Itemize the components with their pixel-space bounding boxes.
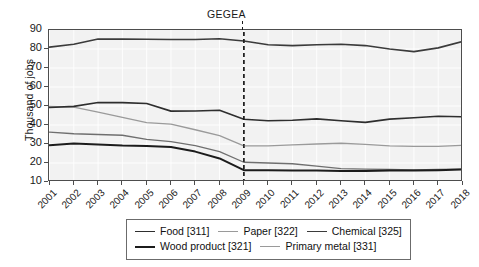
plot-area — [48, 29, 462, 181]
y-tick-label: 70 — [0, 61, 42, 72]
x-tick-mark — [316, 181, 317, 185]
legend-label: Food [311] — [160, 226, 209, 237]
y-tick-label: 20 — [0, 156, 42, 167]
x-tick-mark — [389, 181, 390, 185]
legend-row-1: Food [311]Paper [322]Chemical [325] — [135, 224, 402, 239]
x-tick-mark — [97, 181, 98, 185]
series-line-321 — [50, 144, 462, 171]
x-tick-mark — [291, 181, 292, 185]
legend-item[interactable]: Paper [322] — [218, 226, 297, 237]
legend-label: Primary metal [331] — [285, 241, 376, 252]
legend-line-swatch — [260, 246, 280, 247]
legend-line-swatch — [307, 231, 327, 232]
x-tick-mark — [146, 181, 147, 185]
x-tick-mark — [194, 181, 195, 185]
y-tick-label: 10 — [0, 175, 42, 186]
legend-label: Wood product [321] — [160, 241, 251, 252]
y-tick-label: 50 — [0, 99, 42, 110]
x-tick-mark — [170, 181, 171, 185]
chart-figure: Thousand of jobs 908070605040302010 GEGE… — [0, 0, 479, 267]
series-line-325 — [50, 39, 462, 52]
x-tick-mark — [267, 181, 268, 185]
legend-label: Paper [322] — [243, 226, 297, 237]
legend-item[interactable]: Primary metal [331] — [260, 241, 376, 252]
legend-item[interactable]: Food [311] — [135, 226, 209, 237]
x-tick-mark — [49, 181, 50, 185]
x-tick-mark — [243, 181, 244, 185]
legend-line-swatch — [218, 231, 238, 232]
x-tick-mark — [121, 181, 122, 185]
gegea-annotation: GEGEA — [207, 8, 246, 20]
gegea-marker-stem — [242, 21, 243, 30]
x-tick-mark — [364, 181, 365, 185]
x-tick-mark — [73, 181, 74, 185]
legend-item[interactable]: Chemical [325] — [307, 226, 402, 237]
y-tick-label: 60 — [0, 80, 42, 91]
x-tick-mark — [462, 181, 463, 185]
legend-label: Chemical [325] — [332, 226, 402, 237]
legend-line-swatch — [135, 246, 155, 248]
legend-row-2: Wood product [321]Primary metal [331] — [135, 239, 402, 254]
series-line-322 — [50, 106, 462, 146]
x-tick-mark — [340, 181, 341, 185]
series-line-311 — [50, 103, 462, 123]
y-tick-label: 40 — [0, 118, 42, 129]
x-tick-mark — [413, 181, 414, 185]
chart-legend: Food [311]Paper [322]Chemical [325] Wood… — [126, 219, 411, 260]
legend-line-swatch — [135, 231, 155, 232]
x-tick-mark — [437, 181, 438, 185]
legend-item[interactable]: Wood product [321] — [135, 241, 251, 252]
y-tick-label: 90 — [0, 23, 42, 34]
x-tick-mark — [219, 181, 220, 185]
chart-canvas — [49, 30, 461, 180]
y-tick-label: 80 — [0, 42, 42, 53]
y-tick-label: 30 — [0, 137, 42, 148]
series-line-331 — [50, 132, 462, 170]
y-tick-mark — [44, 181, 48, 182]
